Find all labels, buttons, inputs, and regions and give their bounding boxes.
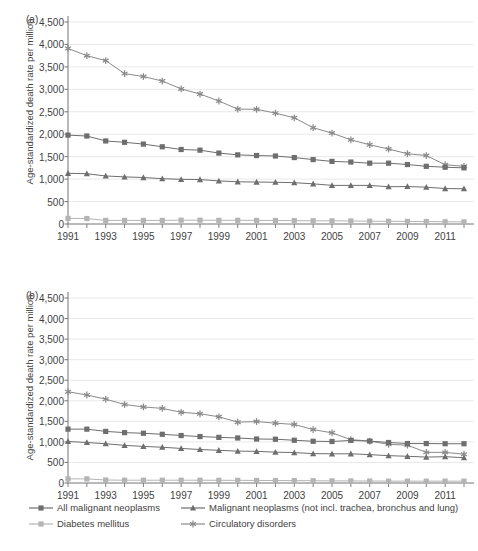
y-tick-label: 500 <box>47 457 64 468</box>
chart-panel-a: (a) Age-standardized death rate per mill… <box>0 0 478 272</box>
svg-text:2007: 2007 <box>359 231 382 242</box>
x-tick-marks <box>68 224 464 228</box>
svg-text:2003: 2003 <box>283 231 306 242</box>
y-tick-label: 3,000 <box>39 84 64 95</box>
y-axis-ticks-b: 05001,0001,5002,0002,5003,0003,5004,0004… <box>22 276 64 496</box>
figure-root: (a) Age-standardized death rate per mill… <box>0 0 478 551</box>
y-tick-label: 4,000 <box>39 39 64 50</box>
svg-text:1991: 1991 <box>57 231 80 242</box>
y-tick-label: 1,500 <box>39 416 64 427</box>
legend-label-2: Diabetes mellitus <box>57 518 129 530</box>
gridlines <box>68 298 474 483</box>
legend-marker-triangle-dark <box>180 502 206 514</box>
y-tick-label: 3,500 <box>39 61 64 72</box>
y-tick-label: 2,500 <box>39 375 64 386</box>
svg-text:2001: 2001 <box>245 231 268 242</box>
y-tick-label: 500 <box>47 196 64 207</box>
legend-item-malignant-neoplasms-excl: Malignant neoplasms (not incl. trachea, … <box>180 502 458 514</box>
legend-marker-star <box>180 518 206 530</box>
y-tick-label: 1,000 <box>39 436 64 447</box>
y-tick-label: 1,000 <box>39 174 64 185</box>
y-tick-label: 4,000 <box>39 313 64 324</box>
y-tick-label: 0 <box>58 478 64 489</box>
legend-item-diabetes-mellitus: Diabetes mellitus <box>28 518 129 530</box>
legend-item-all-malignant-neoplasms: All malignant neoplasms <box>28 502 160 514</box>
y-tick-label: 4,500 <box>39 17 64 28</box>
y-tick-label: 0 <box>58 219 64 230</box>
legend-label-3: Circulatory disorders <box>209 518 296 530</box>
x-tick-labels: 1991199319951997199920012003200520072009… <box>57 231 456 242</box>
y-tick-label: 3,500 <box>39 334 64 345</box>
chart-svg: 1991199319951997199920012003200520072009… <box>68 22 478 258</box>
gridlines <box>68 22 474 224</box>
y-tick-label: 2,000 <box>39 395 64 406</box>
series-1 <box>65 427 466 447</box>
svg-text:2011: 2011 <box>434 231 456 242</box>
svg-text:1999: 1999 <box>208 231 231 242</box>
legend-item-circulatory-disorders: Circulatory disorders <box>180 518 296 530</box>
series-1 <box>65 133 466 171</box>
chart-svg: 1991199319951997199920012003200520072009… <box>68 298 478 517</box>
legend-label-0: All malignant neoplasms <box>57 502 160 514</box>
svg-text:2005: 2005 <box>321 231 344 242</box>
series-3 <box>65 216 466 225</box>
svg-text:1995: 1995 <box>132 231 155 242</box>
legend-marker-square-dark <box>28 502 54 514</box>
x-tick-marks <box>68 483 464 487</box>
plot-area-b: 1991199319951997199920012003200520072009… <box>68 298 464 483</box>
plot-area-a: 1991199319951997199920012003200520072009… <box>68 22 464 224</box>
y-tick-label: 4,500 <box>39 293 64 304</box>
y-tick-label: 2,500 <box>39 106 64 117</box>
svg-text:1997: 1997 <box>170 231 193 242</box>
legend-marker-square-light <box>28 518 54 530</box>
svg-text:2009: 2009 <box>396 231 419 242</box>
y-tick-label: 1,500 <box>39 151 64 162</box>
chart-legend: All malignant neoplasms Malignant neopla… <box>0 500 478 544</box>
legend-label-1: Malignant neoplasms (not incl. trachea, … <box>209 502 458 514</box>
y-tick-label: 2,000 <box>39 129 64 140</box>
series-2 <box>65 170 467 191</box>
y-tick-label: 3,000 <box>39 354 64 365</box>
chart-panel-b: (b) Age-standardized death rate per mill… <box>0 276 478 496</box>
series-0 <box>65 45 467 170</box>
svg-text:1993: 1993 <box>95 231 118 242</box>
